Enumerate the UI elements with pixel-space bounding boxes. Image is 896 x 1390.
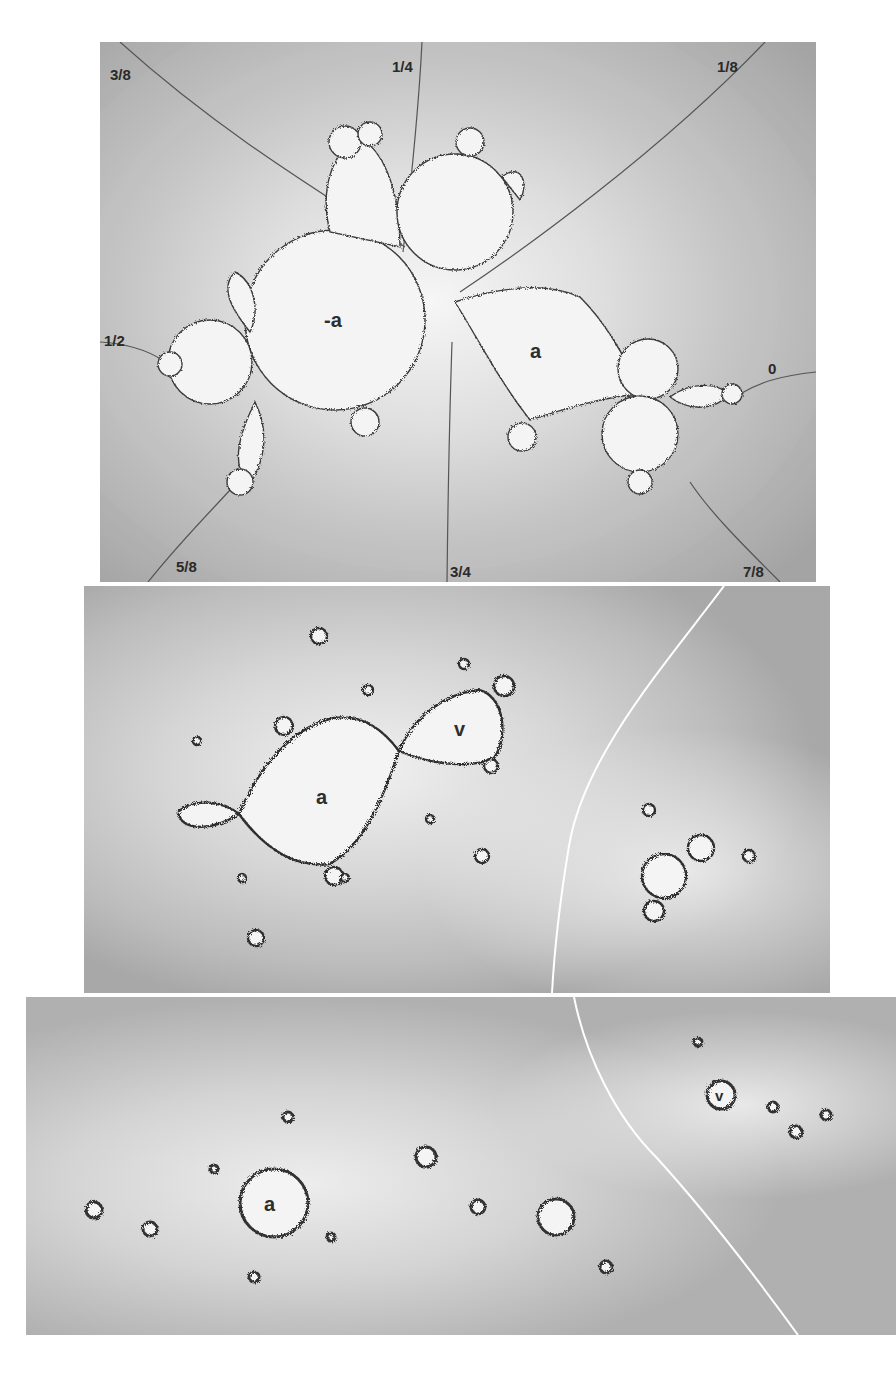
right-lower-bulb [602,396,678,472]
middle-fractal-diagram: a v [84,586,830,993]
label-a: a [264,1193,276,1215]
ray-label-3-8: 3/8 [110,66,131,83]
upper-right-bulb [397,154,513,270]
ray-label-0: 0 [768,360,776,377]
bottom-panel: a v [26,997,896,1335]
right-copy-main [642,854,686,898]
top-panel: -a a 3/8 1/4 1/8 1/2 0 5/8 3/4 7/8 [100,42,816,582]
label-v: v [454,718,466,740]
mid-copy [538,1199,574,1235]
middle-panel: a v [84,586,830,993]
top-fractal-diagram: -a a 3/8 1/4 1/8 1/2 0 5/8 3/4 7/8 [100,42,816,582]
label-a: a [316,786,328,808]
right-upper-bulb [618,339,678,399]
ray-label-3-4: 3/4 [450,563,472,580]
ray-label-1-8: 1/8 [717,58,738,75]
label-v: v [715,1087,724,1104]
ray-label-5-8: 5/8 [176,558,197,575]
label-neg-a: -a [324,309,343,331]
ray-label-1-2: 1/2 [104,332,125,349]
ray-label-7-8: 7/8 [743,563,764,580]
ray-label-1-4: 1/4 [392,58,414,75]
label-a: a [530,340,542,362]
bottom-fractal-diagram: a v [26,997,896,1335]
